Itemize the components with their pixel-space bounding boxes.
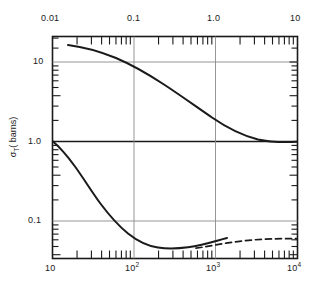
y-tick-label-2: 0.1 [28, 216, 41, 225]
top-tick-label-2: 1.0 [207, 14, 220, 23]
bottom-tick-exponent-2: 3 [216, 261, 220, 268]
bottom-tick-mantissa-1: 10 [125, 263, 135, 273]
curve-lower-solid [53, 142, 227, 249]
bottom-tick-label-2: 103 [206, 264, 220, 273]
bottom-tick-label-1: 102 [125, 264, 139, 273]
bottom-tick-mantissa-0: 10 [45, 263, 55, 273]
top-tick-label-1: 0.1 [127, 14, 140, 23]
bottom-tick-mantissa-2: 10 [206, 263, 216, 273]
axes-border [53, 37, 298, 259]
bottom-tick-exponent-3: 4 [297, 261, 301, 268]
y-axis-label-subscript: T [13, 148, 20, 152]
curve-upper-solid [68, 45, 297, 142]
bottom-tick-label-0: 10 [45, 264, 55, 273]
y-axis-label: σT( barns) [8, 102, 18, 172]
figure-container: 0.01 0.1 1.0 10 10 102 103 104 10 1.0 0.… [0, 0, 314, 294]
top-tick-label-3: 10 [290, 14, 300, 23]
bottom-axis-ticks [77, 251, 293, 259]
top-tick-label-0: 0.01 [41, 14, 59, 23]
log-log-plot [0, 0, 314, 294]
bottom-tick-label-3: 104 [287, 264, 301, 273]
bottom-tick-exponent-1: 2 [135, 261, 139, 268]
right-axis-ticks [290, 48, 298, 255]
y-axis-label-units: ( barns) [8, 117, 18, 148]
y-tick-label-1: 1.0 [28, 137, 41, 146]
data-curves [53, 45, 297, 248]
plot-frame [53, 37, 298, 259]
y-axis-label-sigma: σ [8, 152, 18, 158]
y-tick-label-0: 10 [33, 57, 43, 66]
bottom-tick-mantissa-3: 10 [287, 263, 297, 273]
top-axis-ticks [77, 37, 293, 45]
gridlines [53, 37, 298, 259]
